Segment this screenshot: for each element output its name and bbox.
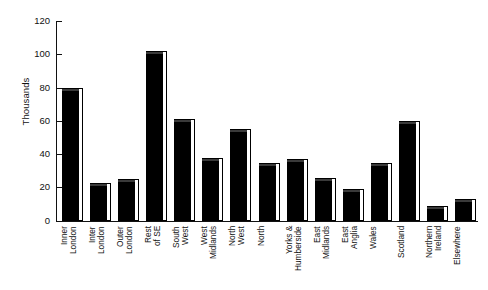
y-tick-mark [57, 21, 62, 22]
x-tick-label: WestMidlands [200, 226, 219, 286]
x-tick-label: Wales [369, 226, 378, 286]
x-tick-label: NorthWest [228, 226, 247, 286]
x-tick-label-line2: London [126, 226, 135, 286]
x-tick-label: OuterLondon [116, 226, 135, 286]
x-tick-label: North [257, 226, 266, 286]
y-tick-mark [57, 54, 62, 55]
x-axis-labels: InnerLondonInterLondonOuterLondonRestof … [0, 0, 488, 290]
x-tick-label-line2: West [182, 226, 191, 286]
y-tick-mark [57, 187, 62, 188]
x-tick-label-line1: Elsewhere [452, 226, 462, 265]
x-tick-label: EastMidlands [313, 226, 332, 286]
y-tick-mark [57, 221, 62, 222]
x-tick-label-line1: Yorks & [284, 226, 294, 254]
x-tick-label: Elsewhere [453, 226, 462, 286]
x-tick-label-line1: Northern [424, 226, 434, 258]
y-tick-mark [57, 88, 62, 89]
x-tick-label-line2: London [69, 226, 78, 286]
x-tick-label-line1: Inner [59, 226, 69, 245]
x-tick-label-line1: Wales [368, 226, 378, 249]
x-tick-label: SouthWest [172, 226, 191, 286]
x-tick-label-line2: London [98, 226, 107, 286]
x-tick-label: Restof SE [144, 226, 163, 286]
x-tick-label: Scotland [397, 226, 406, 286]
x-tick-label: InterLondon [88, 226, 107, 286]
y-tick-mark [57, 154, 62, 155]
y-tick-mark [57, 121, 62, 122]
x-tick-label-line2: Humberside [294, 226, 303, 286]
x-tick-label: Yorks &Humberside [285, 226, 304, 286]
x-tick-label: NorthernIreland [425, 226, 444, 286]
x-tick-label-line2: of SE [154, 226, 163, 286]
x-tick-label: InnerLondon [60, 226, 79, 286]
x-tick-label-line1: South [171, 226, 181, 248]
x-tick-label-line2: Ireland [434, 226, 443, 286]
x-tick-label-line1: North [256, 226, 266, 246]
x-tick-label: EastAnglia [341, 226, 360, 286]
x-tick-label-line2: Anglia [350, 226, 359, 286]
x-tick-label-line1: Rest [143, 226, 153, 243]
x-tick-label-line1: East [340, 226, 350, 243]
x-tick-label-line1: Scotland [396, 226, 406, 258]
x-tick-label-line2: West [238, 226, 247, 286]
x-tick-label-line2: Midlands [210, 226, 219, 286]
x-tick-label-line2: Midlands [322, 226, 331, 286]
x-tick-label-line1: East [312, 226, 322, 243]
x-tick-label-line1: Outer [115, 226, 125, 247]
bar-chart: Thousands 020406080100120 InnerLondonInt… [0, 0, 488, 290]
x-tick-label-line1: Inter [87, 226, 97, 243]
